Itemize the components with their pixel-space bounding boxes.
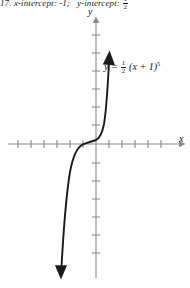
y-axis: [92, 22, 100, 278]
coefficient-denominator: 2: [121, 68, 126, 75]
quintic-curve: [61, 62, 109, 276]
x-axis-label: x: [179, 133, 183, 144]
coordinate-plane: [0, 0, 190, 288]
equation-exponent: 5: [157, 60, 160, 67]
equation-label: y = 1 2 (x + 1)5: [104, 60, 160, 75]
equation-lhs: y: [104, 61, 108, 72]
equation-coefficient: 1 2: [121, 60, 126, 75]
y-axis-label: y: [88, 6, 92, 17]
equation-body: (x + 1): [129, 61, 157, 72]
graph-figure: y = 1 2 (x + 1)5 y x: [0, 0, 190, 288]
equation-equals: =: [111, 61, 118, 72]
